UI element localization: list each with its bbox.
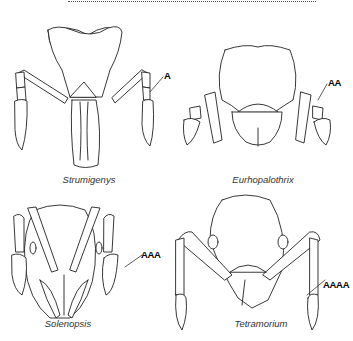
label-aaaa: AAAA (323, 279, 349, 290)
caption-tetramorium: Tetramorium (235, 318, 288, 329)
strumigenys-head-illustration (0, 0, 180, 180)
tetramorium-head-illustration (170, 180, 353, 341)
solenopsis-head-illustration (0, 180, 180, 341)
caption-solenopsis: Solenopsis (45, 318, 91, 329)
label-aa: AA (328, 77, 341, 88)
eurhopalothrix-head-illustration (170, 0, 353, 180)
label-aaa: AAA (141, 249, 161, 260)
